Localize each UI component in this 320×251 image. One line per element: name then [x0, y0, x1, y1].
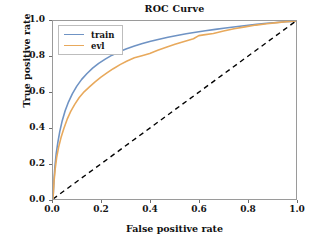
- chart-legend: train evl: [58, 25, 123, 55]
- y-tick-2: [49, 128, 52, 129]
- x-tick-5: [297, 200, 298, 203]
- x-tick-label-5: 1.0: [280, 204, 314, 214]
- legend-label-train: train: [91, 30, 114, 40]
- x-tick-0: [52, 200, 53, 203]
- x-tick-3: [199, 200, 200, 203]
- x-tick-label-3: 0.6: [182, 204, 216, 214]
- y-tick-5: [49, 20, 52, 21]
- legend-swatch-evl: [64, 45, 84, 46]
- x-tick-2: [150, 200, 151, 203]
- y-tick-label-0: 0.0: [9, 194, 45, 206]
- legend-swatch-train: [64, 34, 84, 35]
- x-axis-label: False positive rate: [52, 223, 297, 234]
- y-tick-0: [49, 200, 52, 201]
- legend-item-evl: evl: [64, 40, 114, 51]
- y-tick-3: [49, 92, 52, 93]
- legend-label-evl: evl: [91, 41, 105, 51]
- legend-item-train: train: [64, 29, 114, 40]
- chart-title: ROC Curve: [52, 3, 297, 14]
- x-tick-label-1: 0.2: [84, 204, 118, 214]
- y-tick-label-1: 0.2: [9, 158, 45, 170]
- y-axis-label: True positive rate: [21, 0, 32, 131]
- x-tick-label-2: 0.4: [133, 204, 167, 214]
- x-tick-label-4: 0.8: [231, 204, 265, 214]
- x-tick-4: [248, 200, 249, 203]
- y-tick-4: [49, 56, 52, 57]
- x-tick-1: [101, 200, 102, 203]
- plot-area: train evl: [52, 20, 297, 200]
- y-tick-1: [49, 164, 52, 165]
- roc-curve-figure: ROC Curve train evl 0.00.20.40.60.81.00.…: [0, 0, 320, 251]
